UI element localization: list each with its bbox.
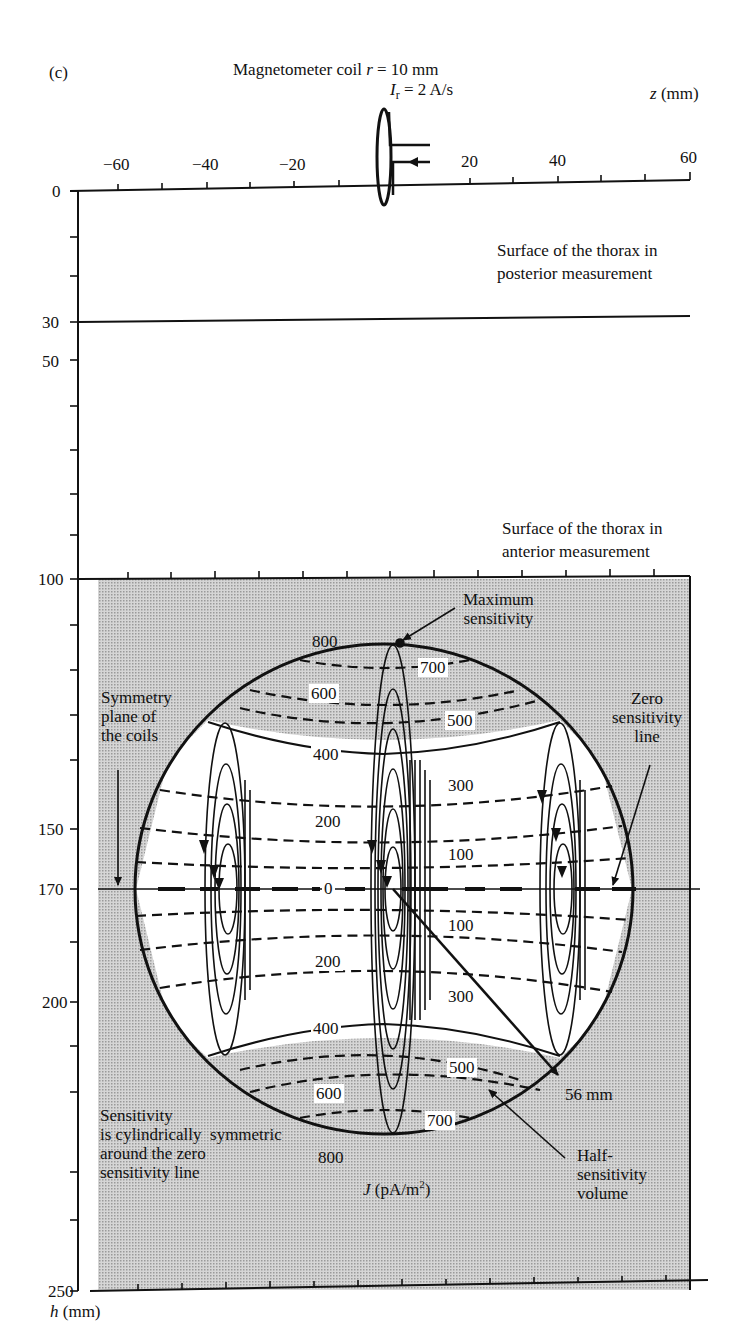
x-axis-var: z xyxy=(650,84,657,103)
x-tick-label: 20 xyxy=(461,152,478,171)
y-tick-label: 250 xyxy=(48,1282,74,1301)
contour-label: 200 xyxy=(313,952,343,971)
y-axis-unit: (mm) xyxy=(59,1302,101,1321)
contour-label-zero: 0 xyxy=(322,879,335,898)
contour-label: 600 xyxy=(309,684,339,703)
y-tick-label: 30 xyxy=(42,313,59,332)
contour-label: 700 xyxy=(418,658,448,677)
panel-label: (c) xyxy=(49,63,68,82)
symmetry-plane-label: Symmetry plane of the coils xyxy=(101,688,172,745)
y-axis-ticks xyxy=(70,191,78,1291)
y-tick-label: 150 xyxy=(38,820,64,839)
x-tick-label: −20 xyxy=(279,155,306,174)
contour-label: 500 xyxy=(447,1058,477,1077)
coil-title: Magnetometer coil r = 10 mm xyxy=(233,60,439,79)
contour-label: 200 xyxy=(313,812,343,831)
coil-title-suffix: = 10 mm xyxy=(373,60,439,79)
current-suffix: = 2 A/s xyxy=(400,80,454,99)
current-density-unit: J (pA/m2) xyxy=(363,1175,430,1199)
contour-label: 800 xyxy=(312,632,338,651)
coil-current: Ir = 2 A/s xyxy=(390,80,453,105)
y-axis-var: h xyxy=(50,1302,59,1321)
x-tick-label: 60 xyxy=(680,148,697,167)
anterior-surface-label: Surface of the thorax in anterior measur… xyxy=(502,519,663,561)
contour-label: 600 xyxy=(314,1084,344,1103)
contour-label: 300 xyxy=(446,987,476,1006)
coil-title-prefix: Magnetometer coil xyxy=(233,60,366,79)
y-tick-label: 100 xyxy=(38,570,64,589)
max-sensitivity-label: Maximum sensitivity xyxy=(463,590,534,628)
magnetometer-coil-icon xyxy=(377,109,430,205)
x-tick-label: −40 xyxy=(192,155,219,174)
contour-label: 500 xyxy=(445,711,475,730)
x-axis-label: z (mm) xyxy=(650,84,699,103)
contour-label: 300 xyxy=(446,776,476,795)
contour-label: 400 xyxy=(311,745,341,764)
x-axis-unit: (mm) xyxy=(657,84,699,103)
x-tick-label: 40 xyxy=(549,151,566,170)
y-tick-label: 170 xyxy=(38,880,64,899)
x-tick-label: −60 xyxy=(103,155,130,174)
y-tick-label: 200 xyxy=(42,993,68,1012)
cylindrical-symmetry-label: Sensitivity is cylindrically symmetric a… xyxy=(100,1106,282,1182)
y-tick-label: 0 xyxy=(52,182,61,201)
contour-label: 100 xyxy=(446,845,476,864)
half-sensitivity-label: Half- sensitivity volume xyxy=(577,1146,647,1203)
contour-label: 400 xyxy=(311,1019,341,1038)
zero-sensitivity-label: Zero sensitivity line xyxy=(612,689,682,746)
contour-label: 800 xyxy=(318,1148,344,1167)
contour-label: 700 xyxy=(425,1111,455,1130)
coil-title-var: r xyxy=(366,60,373,79)
posterior-surface-label: Surface of the thorax in posterior measu… xyxy=(497,241,658,283)
radius-label: 56 mm xyxy=(565,1085,613,1104)
y-axis-label: h (mm) xyxy=(50,1302,101,1321)
y-tick-label: 50 xyxy=(42,352,59,371)
contour-label: 100 xyxy=(446,916,476,935)
